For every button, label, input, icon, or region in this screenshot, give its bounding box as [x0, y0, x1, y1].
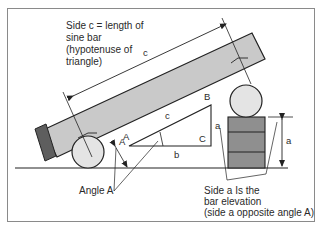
- svg-text:b: b: [174, 149, 179, 160]
- left-roller: [72, 136, 104, 168]
- angle-a-note: Angle A: [79, 185, 114, 196]
- svg-text:B: B: [204, 91, 210, 102]
- gauge-block-stack: [228, 117, 265, 168]
- sine-bar-diagram: c Side c = length of sine bar (hypotenus…: [0, 0, 323, 230]
- svg-text:C: C: [199, 133, 206, 144]
- right-roller: [230, 85, 262, 117]
- figure-frame: [8, 9, 315, 222]
- bar-angle-label: A: [123, 131, 130, 142]
- dimension-c-label: c: [143, 47, 148, 58]
- dimension-a-label: a: [286, 135, 292, 146]
- svg-text:c: c: [165, 110, 170, 121]
